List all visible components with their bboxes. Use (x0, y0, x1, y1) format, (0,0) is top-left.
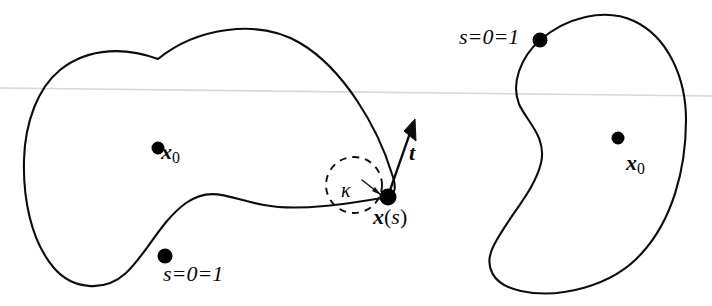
label-start-point-left-text: s=0=1 (163, 261, 223, 286)
label-start-point-left: s=0=1 (163, 263, 223, 285)
horizon-line (0, 88, 712, 96)
tangent-arrow-head (404, 119, 416, 141)
figure-canvas: x0 x0 x(s) t κ s=0=1 s=0=1 (0, 0, 712, 306)
label-x0-left-subscript: 0 (172, 149, 180, 166)
tangent-arrow-shaft (388, 133, 410, 196)
label-x-of-s-close-paren: ) (400, 204, 407, 229)
label-curvature: κ (341, 180, 351, 200)
point-s-zero-right (533, 33, 548, 48)
label-tangent-vector: t (409, 142, 415, 164)
label-x0-right-symbol: x (626, 150, 637, 175)
label-start-point-right-text: s=0=1 (459, 24, 519, 49)
label-x-of-s-symbol: x (373, 204, 384, 229)
label-x-of-s-argument: s (391, 204, 400, 229)
label-x0-left-symbol: x (161, 139, 172, 164)
label-x-of-s: x(s) (373, 206, 407, 228)
label-x0-right-subscript: 0 (637, 160, 645, 177)
label-start-point-right: s=0=1 (459, 26, 519, 48)
label-x0-right: x0 (626, 152, 645, 177)
diagram-svg (0, 0, 712, 306)
right-closed-curve (489, 15, 686, 294)
label-x0-left: x0 (161, 141, 180, 166)
point-x-of-s (380, 189, 397, 206)
point-x0-right (612, 132, 625, 145)
left-closed-curve (24, 29, 395, 286)
